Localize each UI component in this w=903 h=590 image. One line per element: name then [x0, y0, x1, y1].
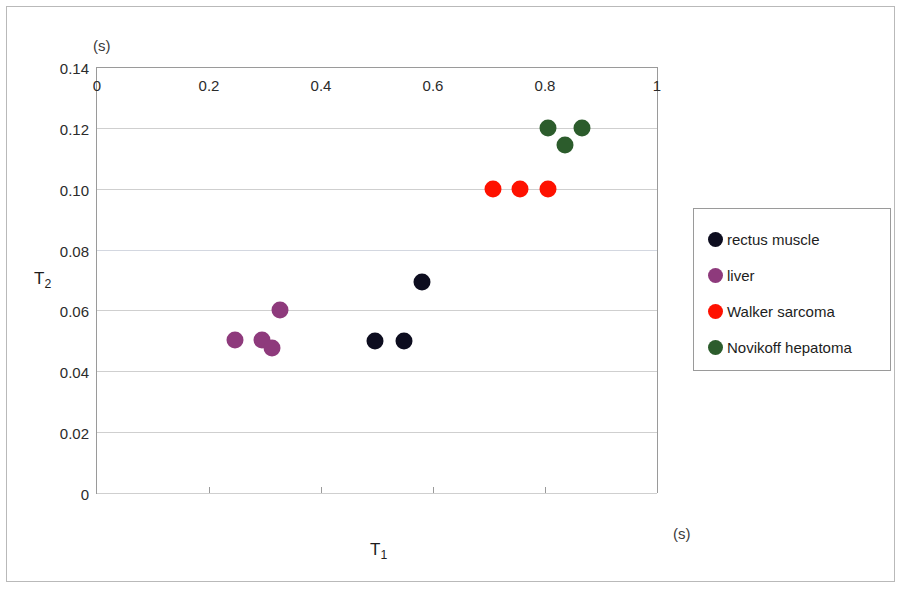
y-tick-label: 0.14 — [60, 60, 89, 77]
legend-marker-icon — [708, 340, 723, 355]
data-point — [264, 339, 281, 356]
data-point — [272, 302, 289, 319]
chart-figure: (s) (s) T2 T1 00.020.040.060.080.100.120… — [6, 6, 895, 582]
legend: rectus muscleliverWalker sarcomaNovikoff… — [693, 208, 891, 371]
legend-item-1[interactable]: liver — [708, 257, 890, 293]
gridline: 0.04 — [97, 371, 657, 372]
data-point — [366, 332, 383, 349]
gridline: 0.14 — [97, 67, 657, 68]
x-tick-label: 0.8 — [535, 77, 556, 94]
data-point — [226, 332, 243, 349]
legend-marker-icon — [708, 268, 723, 283]
y-tick-label: 0.02 — [60, 425, 89, 442]
x-tick-label: 0.4 — [311, 77, 332, 94]
x-tick — [209, 487, 210, 493]
legend-marker-icon — [708, 232, 723, 247]
x-tick — [433, 487, 434, 493]
legend-item-label: rectus muscle — [727, 231, 820, 248]
x-axis-unit-label: (s) — [673, 525, 691, 542]
x-tick-label: 0 — [93, 77, 101, 94]
x-tick-label: 1 — [653, 77, 661, 94]
data-point — [413, 273, 430, 290]
y-tick-label: 0.12 — [60, 120, 89, 137]
y-tick-label: 0.08 — [60, 242, 89, 259]
y-tick-label: 0 — [81, 486, 89, 503]
plot-right-border — [657, 67, 658, 493]
y-axis-unit-label: (s) — [93, 37, 111, 54]
data-point — [539, 180, 556, 197]
data-point — [539, 119, 556, 136]
data-point — [395, 332, 412, 349]
data-point — [511, 180, 528, 197]
legend-marker-icon — [708, 304, 723, 319]
legend-item-label: Novikoff hepatoma — [727, 339, 852, 356]
y-tick-label: 0.06 — [60, 303, 89, 320]
data-point — [484, 180, 501, 197]
gridline: 0 — [97, 493, 657, 494]
x-tick-label: 0.6 — [423, 77, 444, 94]
y-tick-label: 0.04 — [60, 364, 89, 381]
legend-item-3[interactable]: Novikoff hepatoma — [708, 329, 890, 365]
data-point — [557, 136, 574, 153]
legend-item-label: liver — [727, 267, 755, 284]
plot-area: 00.020.040.060.080.100.120.14 00.20.40.6… — [96, 67, 657, 494]
legend-item-0[interactable]: rectus muscle — [708, 221, 890, 257]
y-axis-title: T2 — [34, 269, 51, 291]
x-tick — [321, 487, 322, 493]
gridline: 0.06 — [97, 310, 657, 311]
gridline: 0.02 — [97, 432, 657, 433]
x-tick-label: 0.2 — [199, 77, 220, 94]
data-point — [573, 119, 590, 136]
x-axis-title: T1 — [370, 540, 387, 562]
legend-item-label: Walker sarcoma — [727, 303, 835, 320]
y-tick-label: 0.10 — [60, 181, 89, 198]
legend-item-2[interactable]: Walker sarcoma — [708, 293, 890, 329]
gridline: 0.08 — [97, 250, 657, 251]
x-tick — [545, 487, 546, 493]
gridline: 0.10 — [97, 189, 657, 190]
